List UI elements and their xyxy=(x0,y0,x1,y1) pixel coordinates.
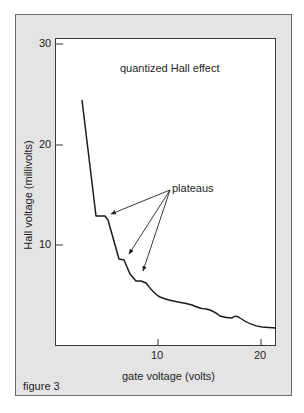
x-ticks xyxy=(158,339,261,345)
figure-caption: figure 3 xyxy=(23,380,60,392)
y-ticks xyxy=(56,44,63,245)
chart-title: quantized Hall effect xyxy=(120,62,219,74)
y-tick-10: 10 xyxy=(39,238,51,250)
plateaus-annotation: plateaus xyxy=(172,182,214,194)
y-tick-20: 20 xyxy=(39,138,51,150)
y-tick-30: 30 xyxy=(39,37,51,49)
x-tick-10: 10 xyxy=(151,349,163,361)
y-axis-label: Hall voltage (millivolts) xyxy=(22,140,34,249)
x-tick-20: 20 xyxy=(254,349,266,361)
x-axis-label: gate voltage (volts) xyxy=(122,370,215,382)
